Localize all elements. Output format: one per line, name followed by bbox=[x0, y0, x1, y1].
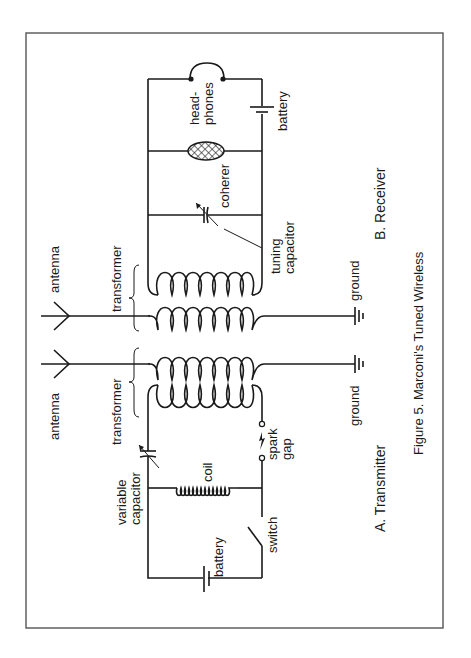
receiver-battery-label: battery bbox=[275, 91, 290, 131]
figure-caption: Figure 5. Marconi's Tuned Wireless bbox=[411, 251, 426, 455]
transmitter-battery-label: battery bbox=[211, 537, 226, 577]
receiver-section-label: B. Receiver bbox=[372, 167, 388, 240]
marconi-tuned-wireless-figure: antenna transformer head- phones battery… bbox=[0, 0, 471, 658]
variable-capacitor-icon bbox=[139, 445, 159, 468]
transmitter-coil-icon bbox=[176, 488, 237, 496]
receiver-ground-icon bbox=[355, 307, 363, 325]
headphones-label-line1: head- bbox=[187, 92, 202, 125]
transmitter-transformer-antenna-coil bbox=[148, 358, 264, 381]
coherer-label: coherer bbox=[217, 163, 232, 208]
switch-icon bbox=[248, 527, 262, 578]
transmitter-transformer-brace bbox=[129, 348, 139, 417]
transmitter-transformer-label: transformer bbox=[109, 378, 124, 445]
receiver-transformer-label: transformer bbox=[109, 245, 124, 312]
variable-capacitor-label-line2: capacitor bbox=[128, 472, 143, 525]
transmitter-transformer-circuit-coil bbox=[157, 385, 254, 408]
transmitter-section-label: A. Transmitter bbox=[372, 445, 388, 532]
transmitter-ground-label: ground bbox=[347, 386, 362, 426]
spark-gap-label-line2: gap bbox=[279, 438, 294, 460]
spark-gap-label-line1: spark bbox=[265, 428, 280, 460]
coil-label: coil bbox=[200, 462, 215, 482]
receiver-transformer-brace bbox=[129, 265, 139, 331]
receiver-antenna-label: antenna bbox=[47, 245, 62, 293]
receiver-transformer-primary-coil bbox=[148, 308, 264, 331]
headphones-label-line2: phones bbox=[201, 82, 216, 125]
headphones-icon bbox=[188, 63, 225, 82]
transmitter-antenna-label: antenna bbox=[47, 392, 62, 440]
receiver-ground-label: ground bbox=[347, 261, 362, 301]
coherer-icon bbox=[188, 142, 224, 160]
transmitter-ground-icon bbox=[355, 355, 363, 373]
receiver-transformer-secondary-coil bbox=[157, 273, 254, 296]
tuning-capacitor-label-line2: capacitor bbox=[282, 221, 297, 274]
tuning-capacitor-label-line1: tuning bbox=[268, 239, 283, 274]
figure-border bbox=[26, 33, 443, 628]
transmitter-battery-icon bbox=[204, 566, 209, 592]
variable-capacitor-label-line1: variable bbox=[114, 479, 129, 525]
receiver-battery-icon bbox=[250, 106, 274, 114]
switch-label: switch bbox=[265, 517, 280, 553]
